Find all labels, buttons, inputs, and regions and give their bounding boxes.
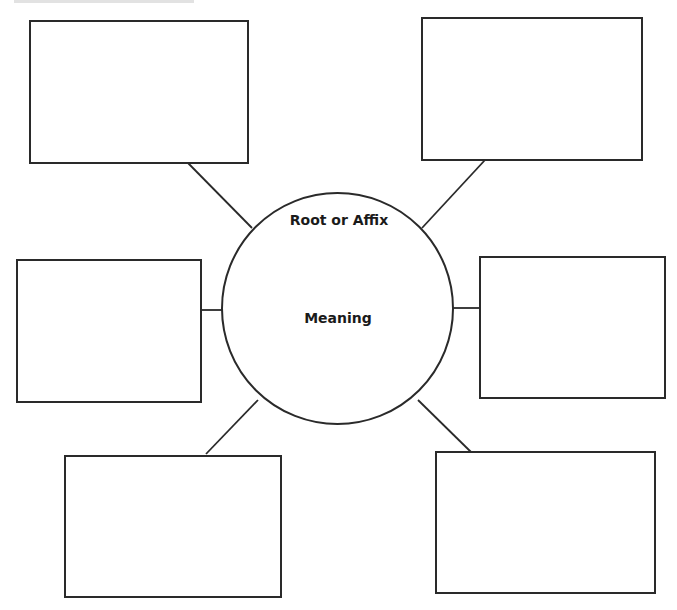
box-bottom-right[interactable] [435, 451, 656, 594]
center-title-root-or-affix: Root or Affix [290, 212, 388, 228]
word-web-diagram: Root or Affix Meaning [0, 0, 677, 610]
box-bottom-left[interactable] [64, 455, 282, 598]
connector-bottom-left [206, 400, 258, 454]
box-top-right[interactable] [421, 17, 643, 161]
box-middle-left[interactable] [16, 259, 202, 403]
connector-top-left [188, 163, 252, 228]
connector-bottom-right [418, 400, 471, 452]
center-subtitle-meaning: Meaning [304, 310, 372, 326]
box-middle-right[interactable] [479, 256, 666, 399]
box-top-left[interactable] [29, 20, 249, 164]
connector-top-right [422, 160, 485, 228]
